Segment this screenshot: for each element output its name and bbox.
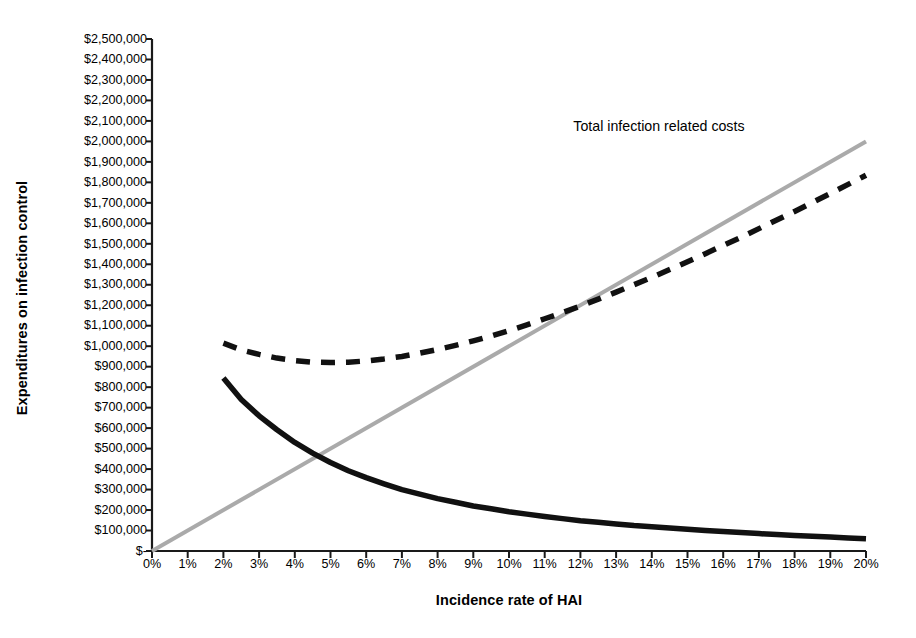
x-axis-tick-label: 20% <box>836 558 896 571</box>
chart-figure: Expenditures on infection control $-$100… <box>0 0 916 638</box>
plot-area <box>0 0 916 638</box>
x-axis-title: Incidence rate of HAI <box>152 592 866 608</box>
total-cost-annotation: Total infection related costs <box>573 118 744 134</box>
x-axis-tick-labels: 0%1%2%3%4%5%6%7%8%9%10%11%12%13%14%15%16… <box>0 558 916 580</box>
series-line <box>223 175 866 362</box>
series-line <box>152 141 866 551</box>
series-line <box>223 378 866 539</box>
